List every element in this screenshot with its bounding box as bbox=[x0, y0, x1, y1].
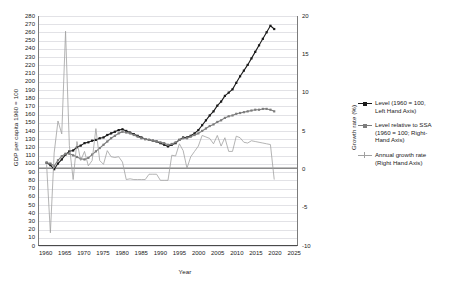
y-tick-left-label: 40 bbox=[13, 210, 35, 216]
y-tick-left-label: 230 bbox=[13, 54, 35, 60]
y-tick-right-label: 10 bbox=[302, 89, 324, 95]
data-point-marker bbox=[235, 113, 237, 115]
data-point-marker bbox=[95, 139, 97, 141]
chart-figure: GDP per capita 1960 = 100 Growth rate (%… bbox=[0, 0, 454, 287]
data-point-marker bbox=[152, 140, 154, 142]
y-tick-left-label: 250 bbox=[13, 37, 35, 43]
data-point-marker bbox=[266, 108, 268, 110]
legend-label: Level relative to SSA(1960 = 100; Right-… bbox=[375, 121, 432, 144]
series-line bbox=[47, 26, 275, 169]
data-point-marker bbox=[239, 112, 241, 114]
data-point-marker bbox=[144, 138, 146, 140]
legend-item-1[interactable]: Level (1960 = 100,Left Hand Axis) bbox=[358, 99, 452, 114]
data-point-marker bbox=[45, 162, 47, 164]
data-point-marker bbox=[106, 134, 108, 136]
data-point-marker bbox=[174, 141, 176, 143]
y-tick-left-label: 270 bbox=[13, 21, 35, 27]
data-point-marker bbox=[228, 115, 230, 117]
data-point-marker bbox=[258, 109, 260, 111]
y-tick-right-label: -10 bbox=[302, 243, 324, 249]
data-point-marker bbox=[163, 142, 165, 144]
y-tick-left-label: 240 bbox=[13, 45, 35, 51]
data-point-marker bbox=[156, 140, 158, 142]
data-point-marker bbox=[61, 158, 63, 160]
data-point-marker bbox=[99, 147, 101, 149]
data-point-marker bbox=[201, 124, 203, 126]
data-point-marker bbox=[121, 128, 123, 130]
data-point-marker bbox=[209, 125, 211, 127]
data-point-marker bbox=[190, 136, 192, 138]
legend-label: Level (1960 = 100,Left Hand Axis) bbox=[375, 99, 426, 114]
data-point-marker bbox=[178, 139, 180, 141]
series-1 bbox=[45, 25, 275, 171]
data-point-marker bbox=[87, 141, 89, 143]
y-tick-left-label: 170 bbox=[13, 103, 35, 109]
data-point-marker bbox=[102, 144, 104, 146]
data-point-marker bbox=[171, 143, 173, 145]
y-tick-left-label: 140 bbox=[13, 128, 35, 134]
data-point-marker bbox=[64, 153, 66, 155]
data-point-marker bbox=[57, 159, 59, 161]
data-point-marker bbox=[243, 111, 245, 113]
y-tick-left-label: 200 bbox=[13, 78, 35, 84]
data-point-marker bbox=[102, 136, 104, 138]
y-tick-left-label: 100 bbox=[13, 160, 35, 166]
data-point-marker bbox=[114, 135, 116, 137]
y-tick-left-label: 0 bbox=[13, 243, 35, 249]
y-tick-left-label: 80 bbox=[13, 177, 35, 183]
data-point-marker bbox=[212, 110, 214, 112]
chart-legend: Level (1960 = 100,Left Hand Axis)Level r… bbox=[358, 99, 452, 173]
data-point-marker bbox=[110, 132, 112, 134]
data-point-marker bbox=[159, 141, 161, 143]
data-point-marker bbox=[61, 155, 63, 157]
data-point-marker bbox=[247, 64, 249, 66]
y-axis-right-title: Growth rate (%) bbox=[350, 82, 357, 174]
data-point-marker bbox=[262, 108, 264, 110]
data-point-marker bbox=[224, 117, 226, 119]
y-tick-left-label: 280 bbox=[13, 13, 35, 19]
y-tick-left-label: 60 bbox=[13, 193, 35, 199]
x-axis-title: Year bbox=[60, 268, 310, 275]
data-point-marker bbox=[254, 51, 256, 53]
data-point-marker bbox=[266, 31, 268, 33]
data-point-marker bbox=[262, 38, 264, 40]
plot-area bbox=[38, 16, 298, 246]
series-line bbox=[47, 31, 275, 233]
data-point-marker bbox=[140, 137, 142, 139]
y-tick-left-label: 20 bbox=[13, 226, 35, 232]
data-point-marker bbox=[250, 57, 252, 59]
y-tick-left-label: 260 bbox=[13, 29, 35, 35]
y-tick-left-label: 160 bbox=[13, 111, 35, 117]
data-point-marker bbox=[99, 137, 101, 139]
data-point-marker bbox=[76, 156, 78, 158]
data-point-marker bbox=[106, 140, 108, 142]
data-point-marker bbox=[80, 145, 82, 147]
legend-item-2[interactable]: Level relative to SSA(1960 = 100; Right-… bbox=[358, 121, 452, 144]
data-point-marker bbox=[220, 100, 222, 102]
data-point-marker bbox=[273, 110, 275, 112]
data-point-marker bbox=[129, 132, 131, 134]
data-point-marker bbox=[205, 127, 207, 129]
y-tick-left-label: 90 bbox=[13, 169, 35, 175]
y-tick-left-label: 220 bbox=[13, 62, 35, 68]
data-point-marker bbox=[197, 132, 199, 134]
data-point-marker bbox=[182, 137, 184, 139]
data-point-marker bbox=[243, 70, 245, 72]
data-point-marker bbox=[269, 25, 271, 27]
y-tick-left-label: 210 bbox=[13, 70, 35, 76]
data-point-marker bbox=[273, 28, 275, 30]
data-point-marker bbox=[209, 114, 211, 116]
data-point-marker bbox=[57, 162, 59, 164]
data-point-marker bbox=[133, 134, 135, 136]
data-point-marker bbox=[95, 150, 97, 152]
data-point-marker bbox=[72, 149, 74, 151]
data-point-marker bbox=[110, 137, 112, 139]
y-tick-right-label: 20 bbox=[302, 13, 324, 19]
y-tick-left-label: 10 bbox=[13, 234, 35, 240]
data-point-marker bbox=[235, 82, 237, 84]
data-point-marker bbox=[220, 119, 222, 121]
y-tick-left-label: 110 bbox=[13, 152, 35, 158]
data-point-marker bbox=[167, 144, 169, 146]
y-tick-left-label: 190 bbox=[13, 87, 35, 93]
legend-item-3[interactable]: Annual growth rate(Right Hand Axis) bbox=[358, 151, 452, 166]
